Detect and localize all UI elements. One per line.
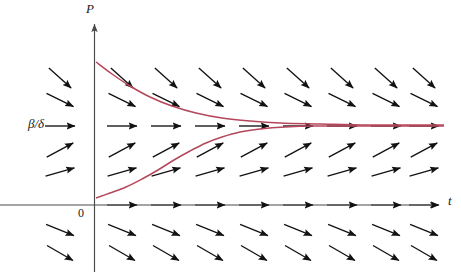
direction-field-arrows [45,68,439,261]
slope-field-figure: P t 0 β/δ [0,0,461,275]
field-arrow [243,68,265,88]
field-arrow [411,143,437,157]
field-arrow [153,143,179,157]
field-arrow [241,246,267,261]
field-arrow [47,93,74,106]
field-arrow [49,68,71,88]
axes [0,24,438,272]
field-arrow [108,224,136,235]
equilibrium-label: β/δ [28,117,44,130]
field-arrow [413,68,435,88]
field-arrow [109,246,135,261]
field-arrow [373,93,400,106]
field-arrow [197,246,223,261]
field-arrow [372,168,401,176]
field-arrow [410,168,439,176]
field-arrow [375,68,397,88]
field-arrow [153,246,179,261]
field-arrow [108,168,137,176]
field-arrow [152,224,180,235]
field-arrow [287,68,309,88]
field-arrow [411,246,437,261]
field-arrow [47,246,73,261]
field-arrow [373,143,399,157]
field-arrow [240,168,269,176]
field-arrow [410,224,438,235]
solution-curve [96,62,444,125]
field-arrow [329,246,355,261]
field-arrow [196,168,225,176]
t-axis-label: t [448,194,452,207]
field-arrow [329,93,356,106]
field-arrow [285,93,312,106]
field-arrow [373,246,399,261]
field-arrow [46,224,74,235]
field-arrow [328,224,356,235]
field-arrow [328,168,357,176]
field-arrow [46,168,75,176]
field-arrow [109,93,136,106]
field-arrow [284,224,312,235]
slope-field-canvas [0,0,461,275]
field-arrow [411,93,438,106]
field-arrow [155,68,177,88]
field-arrow [284,168,313,176]
origin-label: 0 [78,207,84,219]
p-axis-label: P [86,2,94,15]
field-arrow [241,143,267,157]
field-arrow [285,246,311,261]
field-arrow [196,224,224,235]
field-arrow [331,68,353,88]
field-arrow [240,224,268,235]
field-arrow [329,143,355,157]
field-arrow [241,93,268,106]
solution-curve [96,126,444,198]
field-arrow [285,143,311,157]
field-arrow [47,143,73,157]
field-arrow [197,93,224,106]
field-arrow [372,224,400,235]
field-arrow [199,68,221,88]
field-arrow [109,143,135,157]
